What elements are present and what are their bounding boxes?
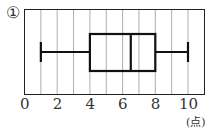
x-tick-label: 4	[85, 95, 95, 113]
x-tick-label: 10	[179, 95, 198, 113]
problem-number: ①	[6, 3, 20, 22]
x-tick-label: 8	[151, 95, 161, 113]
x-tick-label: 6	[118, 95, 128, 113]
boxplot-svg	[0, 0, 209, 133]
box-and-whiskers	[41, 34, 188, 71]
x-tick-label: 2	[53, 95, 63, 113]
x-axis-unit-label: (点)	[186, 113, 206, 129]
x-tick-label: 0	[20, 95, 30, 113]
